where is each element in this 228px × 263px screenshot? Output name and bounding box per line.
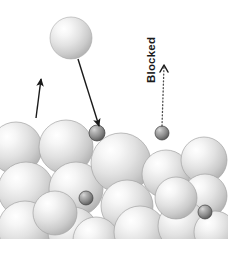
packed-bed-group <box>0 120 228 263</box>
incoming-trajectory-arrow <box>78 59 99 126</box>
rebound-trajectory-arrow <box>36 79 41 118</box>
blocked-label: Blocked <box>143 13 159 83</box>
sphere-deposition-figure: Blocked <box>0 0 228 263</box>
blocked-path-dotted-line <box>162 66 164 126</box>
bed-sphere <box>73 217 119 263</box>
large-sphere-layer <box>0 120 228 263</box>
blocked-particle <box>155 126 169 140</box>
trapped-particle-mid <box>79 191 93 205</box>
flying-sphere <box>50 17 92 59</box>
trapped-particle-right <box>198 205 212 219</box>
bed-sphere <box>114 206 166 258</box>
bed-sphere <box>155 177 197 219</box>
deposited-particle-left <box>89 125 105 141</box>
bed-sphere <box>33 191 77 235</box>
figure-canvas <box>0 0 228 263</box>
